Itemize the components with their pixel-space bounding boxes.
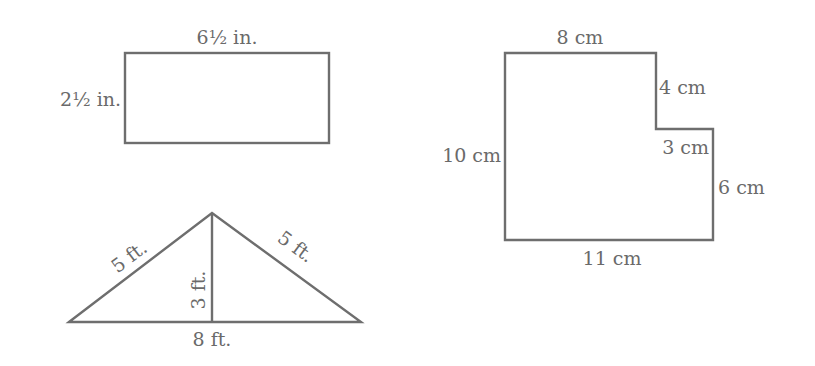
- l-shape-right-label: 6 cm: [718, 176, 765, 198]
- l-shape-left-label: 10 cm: [442, 144, 501, 166]
- triangle-figure: 5 ft. 5 ft. 3 ft. 8 ft.: [69, 213, 361, 350]
- l-shape-top-label: 8 cm: [557, 26, 604, 48]
- triangle-base-label: 8 ft.: [193, 328, 232, 350]
- l-shape-notch-horizontal-label: 3 cm: [662, 136, 709, 158]
- rectangle-height-label: 2½ in.: [60, 88, 121, 110]
- rectangle-shape: [125, 53, 329, 143]
- triangle-left-side-label: 5 ft.: [107, 236, 151, 277]
- rectangle-figure: 6½ in. 2½ in.: [60, 26, 329, 143]
- l-shape-figure: 8 cm 4 cm 3 cm 6 cm 10 cm 11 cm: [442, 26, 765, 269]
- triangle-right-side-label: 5 ft.: [274, 226, 318, 267]
- geometry-figures-canvas: 6½ in. 2½ in. 8 cm 4 cm 3 cm 6 cm 10 cm …: [0, 0, 815, 366]
- figures-svg: 6½ in. 2½ in. 8 cm 4 cm 3 cm 6 cm 10 cm …: [0, 0, 815, 366]
- l-shape-bottom-label: 11 cm: [583, 247, 642, 269]
- rectangle-width-label: 6½ in.: [197, 26, 258, 48]
- triangle-height-label: 3 ft.: [187, 271, 209, 310]
- l-shape-notch-vertical-label: 4 cm: [659, 76, 706, 98]
